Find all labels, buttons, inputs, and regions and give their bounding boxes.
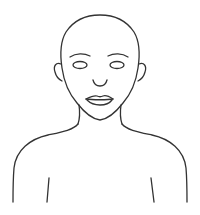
face-outline-canvas: face-outline-bust: [0, 0, 200, 215]
nose: [93, 80, 107, 86]
right-eye: [110, 62, 124, 69]
left-ear: [54, 63, 62, 81]
face-outline-drawing: [0, 0, 200, 215]
right-ear: [138, 63, 146, 81]
head-outline: [61, 15, 139, 120]
left-arm-crease: [47, 178, 49, 202]
left-eye: [73, 62, 87, 69]
right-shoulder: [122, 124, 187, 202]
left-eyebrow: [70, 54, 90, 57]
neck-right: [120, 105, 122, 124]
neck-left: [78, 105, 80, 124]
right-arm-crease: [151, 178, 154, 202]
right-eyebrow: [108, 54, 128, 57]
upper-lip: [86, 96, 113, 99]
left-shoulder: [13, 124, 78, 202]
lip-line: [86, 99, 113, 100]
lower-lip: [87, 100, 112, 105]
